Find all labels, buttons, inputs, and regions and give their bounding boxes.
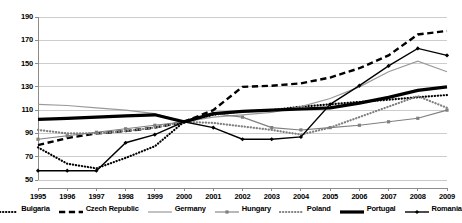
series-marker-romania bbox=[240, 137, 244, 141]
legend-label: Portugal bbox=[367, 204, 396, 213]
axis-ticks bbox=[35, 17, 447, 191]
series-marker-hungary bbox=[66, 134, 69, 137]
series-marker-hungary bbox=[416, 117, 419, 120]
y-tick-label: 190 bbox=[0, 12, 33, 21]
series-marker-hungary bbox=[358, 124, 361, 127]
series-marker-hungary bbox=[299, 128, 302, 131]
series-marker-hungary bbox=[153, 124, 156, 127]
legend-item-bulgaria[interactable]: Bulgaria bbox=[0, 203, 50, 213]
series-marker-hungary bbox=[445, 109, 448, 112]
legend-key-icon bbox=[339, 203, 365, 213]
legend-key-icon bbox=[147, 203, 173, 213]
series-marker-hungary bbox=[124, 127, 127, 130]
legend-item-portugal[interactable]: Portugal bbox=[339, 203, 396, 213]
legend-key-icon bbox=[279, 203, 305, 213]
legend-label: Romania bbox=[432, 204, 462, 213]
series-marker-romania bbox=[211, 126, 215, 130]
series-line-romania bbox=[38, 48, 447, 170]
legend-key-icon bbox=[214, 203, 240, 213]
legend-label: Bulgaria bbox=[21, 204, 49, 213]
data-series-group bbox=[36, 31, 449, 173]
y-tick-label: 50 bbox=[0, 175, 33, 184]
legend-item-romania[interactable]: Romania bbox=[404, 203, 462, 213]
y-tick-label: 170 bbox=[0, 35, 33, 44]
series-marker-hungary bbox=[387, 120, 390, 123]
series-marker-romania bbox=[36, 169, 40, 173]
legend-key-icon bbox=[0, 203, 19, 213]
series-marker-hungary bbox=[36, 138, 39, 141]
legend-key-icon bbox=[404, 203, 430, 213]
series-marker-romania bbox=[65, 169, 69, 173]
legend-label: Poland bbox=[307, 204, 331, 213]
series-marker-romania bbox=[270, 137, 274, 141]
legend-label: Czech Republic bbox=[86, 204, 139, 213]
y-tick-label: 110 bbox=[0, 105, 33, 114]
y-tick-label: 150 bbox=[0, 59, 33, 68]
series-marker-romania bbox=[445, 53, 449, 57]
series-marker-hungary bbox=[270, 126, 273, 129]
y-tick-label: 70 bbox=[0, 152, 33, 161]
legend-label: Hungary bbox=[242, 204, 271, 213]
legend-item-germany[interactable]: Germany bbox=[147, 203, 206, 213]
legend-item-hungary[interactable]: Hungary bbox=[214, 203, 271, 213]
y-tick-label: 90 bbox=[0, 128, 33, 137]
legend-item-czech-republic[interactable]: Czech Republic bbox=[58, 203, 139, 213]
y-tick-label: 130 bbox=[0, 82, 33, 91]
series-marker-hungary bbox=[241, 116, 244, 119]
series-line-czech-republic bbox=[38, 31, 447, 145]
legend-item-poland[interactable]: Poland bbox=[279, 203, 331, 213]
legend-key-icon bbox=[58, 203, 84, 213]
chart-legend: BulgariaCzech RepublicGermanyHungaryPola… bbox=[0, 200, 455, 216]
axis-lines bbox=[38, 17, 447, 188]
legend-label: Germany bbox=[175, 204, 206, 213]
